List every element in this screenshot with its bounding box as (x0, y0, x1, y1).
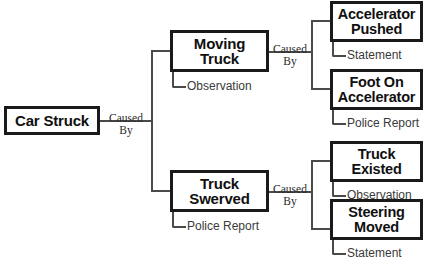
evidence-truck-existed: Observation (347, 189, 412, 201)
node-car-struck[interactable]: Car Struck (4, 106, 100, 135)
node-steering-moved-label: Steering Moved (348, 205, 404, 235)
node-accelerator-pushed-label: Accelerator Pushed (338, 7, 416, 37)
connector-root-trunk (151, 50, 153, 192)
evidence-elbow-steering-moved (332, 240, 346, 255)
evidence-elbow-truck-existed (332, 182, 346, 197)
node-moving-truck[interactable]: Moving Truck (170, 30, 269, 72)
diagram-canvas: Car Struck Moving Truck Truck Swerved Ac… (0, 0, 424, 271)
connector-to-truck-swerved (151, 190, 172, 192)
connector-to-accelerator-pushed (311, 20, 332, 22)
evidence-elbow-moving-truck (172, 72, 186, 88)
evidence-steering-moved: Statement (347, 247, 402, 259)
node-truck-swerved-label: Truck Swerved (189, 176, 249, 207)
node-foot-on-accelerator[interactable]: Foot On Accelerator (330, 69, 423, 110)
evidence-elbow-accelerator-pushed (332, 42, 346, 57)
node-accelerator-pushed[interactable]: Accelerator Pushed (330, 1, 423, 42)
evidence-elbow-foot-on-accelerator (332, 110, 346, 125)
evidence-foot-on-accelerator: Police Report (347, 117, 419, 129)
node-truck-swerved[interactable]: Truck Swerved (170, 170, 269, 212)
relation-root-caused-by: Caused By (101, 112, 151, 136)
node-foot-on-accelerator-label: Foot On Accelerator (338, 75, 416, 105)
node-truck-existed[interactable]: Truck Existed (330, 141, 423, 182)
relation-truck-swerved-caused-by: Caused By (268, 183, 312, 207)
evidence-truck-swerved: Police Report (187, 220, 259, 232)
connector-to-moving-truck (151, 50, 172, 52)
node-car-struck-label: Car Struck (15, 113, 89, 128)
evidence-moving-truck: Observation (187, 80, 252, 92)
connector-to-steering-moved (311, 228, 332, 230)
connector-to-truck-existed (311, 160, 332, 162)
node-moving-truck-label: Moving Truck (194, 36, 245, 67)
evidence-elbow-truck-swerved (172, 212, 186, 228)
relation-moving-truck-caused-by: Caused By (268, 43, 312, 67)
node-steering-moved[interactable]: Steering Moved (330, 199, 423, 240)
evidence-accelerator-pushed: Statement (347, 49, 402, 61)
node-truck-existed-label: Truck Existed (351, 147, 401, 177)
clipped-caption-bottom (0, 265, 424, 271)
connector-to-foot-on-accelerator (311, 88, 332, 90)
